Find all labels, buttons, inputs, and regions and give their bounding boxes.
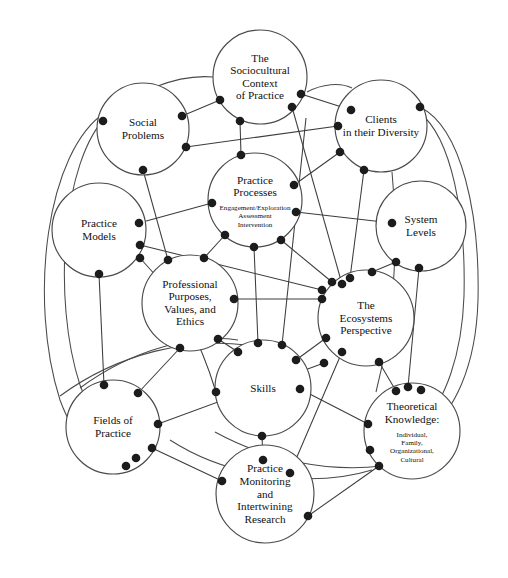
port-dot [258, 432, 267, 441]
node-label-line: Practice [81, 217, 117, 229]
boundary-arc-top-center [307, 85, 352, 92]
port-dot [322, 334, 331, 343]
port-dot [392, 258, 401, 267]
port-dot [417, 386, 426, 395]
concept-diagram-canvas: TheSocioculturalContextof PracticeSocial… [0, 0, 508, 578]
port-dot [346, 274, 355, 283]
port-dot [388, 219, 397, 228]
port-dot [218, 477, 227, 486]
node-label-fields-of-practice: Fields ofPractice [93, 414, 133, 439]
port-dot [214, 335, 223, 344]
port-dot [364, 420, 373, 429]
node-label-line: Ecosystems [340, 312, 393, 324]
node-label-line: and [257, 488, 274, 500]
node-label-line: Purposes, [168, 290, 211, 302]
node-label-line: Models [82, 230, 116, 242]
node-label-line: Values, and [164, 303, 216, 315]
node-sublabel-line: Intervention [238, 221, 273, 229]
node-label-line: Practice [247, 462, 283, 474]
port-dot [178, 112, 187, 121]
port-dot [290, 181, 299, 190]
port-dot [221, 231, 230, 240]
node-label-line: in their Diversity [343, 126, 420, 138]
port-dot [254, 339, 263, 348]
node-sublabel-line: Family, [401, 439, 423, 447]
port-dot [404, 383, 413, 392]
port-dot [368, 268, 377, 277]
port-dot [234, 348, 243, 357]
port-dot [132, 454, 141, 463]
node-label-line: Practice [237, 174, 273, 186]
port-dot [318, 286, 327, 295]
port-dot [292, 356, 301, 365]
port-dot [208, 199, 217, 208]
edge-fields-practice-monitoring [152, 448, 222, 481]
port-dot [148, 444, 157, 453]
edge-professional-purposes-fields [138, 348, 180, 393]
port-dot [154, 420, 163, 429]
port-dot [318, 295, 327, 304]
port-dot [375, 358, 384, 367]
port-dot [336, 148, 345, 157]
port-dot [360, 166, 369, 175]
port-dot [164, 256, 173, 265]
node-label-line: Sociocultural [230, 64, 290, 76]
edge-practice-processes-ecosystems [281, 240, 332, 282]
port-dot [230, 295, 239, 304]
edge-practice-models-practice-processes [139, 203, 212, 223]
port-dot [216, 96, 225, 105]
edge-practice-monitoring-theoretical [308, 466, 379, 516]
edge-skills-ecosystems [296, 338, 326, 360]
port-dot [200, 254, 209, 263]
edge-social-problems-clients [186, 126, 338, 147]
node-sublabel-line: Engagement/Exploration [220, 204, 291, 212]
port-dot [375, 462, 384, 471]
node-label-line: Ethics [176, 315, 204, 327]
port-dot [296, 385, 305, 394]
port-dot [95, 270, 104, 279]
node-label-line: Fields of [93, 414, 133, 426]
node-label-line: Context [242, 77, 278, 89]
node-label-line: System [405, 213, 438, 225]
port-dot [415, 264, 424, 273]
node-label-line: Levels [406, 226, 436, 238]
port-dot [328, 278, 337, 287]
node-label-practice-models: PracticeModels [81, 217, 117, 242]
node-label-line: Skills [250, 382, 276, 394]
port-dot [334, 122, 343, 131]
edge-practice-processes-skills [254, 247, 258, 343]
edge-social-problems-sociocultural [182, 100, 220, 116]
edge-practice-models-fields [99, 274, 104, 385]
node-label-line: Practice [95, 427, 131, 439]
node-label-line: Knowledge: [385, 413, 440, 425]
node-label-line: Social [129, 116, 157, 128]
port-dot [136, 241, 145, 250]
node-label-line: of Practice [236, 89, 284, 101]
concept-network-svg: TheSocioculturalContextof PracticeSocial… [0, 0, 508, 578]
port-dot [100, 381, 109, 390]
port-dot [182, 143, 191, 152]
port-dot [212, 388, 221, 397]
port-dot [338, 280, 347, 289]
port-dot [139, 166, 148, 175]
edge-practice-processes-professional-purposes [204, 235, 225, 258]
node-label-line: The [357, 299, 374, 311]
port-dot [99, 117, 108, 126]
node-label-line: Intertwining [237, 500, 293, 512]
port-dot [292, 208, 301, 217]
node-label-line: Perspective [340, 324, 392, 336]
port-dot [347, 106, 356, 115]
node-label-line: The [251, 52, 268, 64]
port-dot [250, 243, 259, 252]
port-dot [277, 236, 286, 245]
port-dot [122, 462, 131, 471]
node-label-system-levels: SystemLevels [405, 213, 438, 238]
port-dot [304, 512, 313, 521]
port-dot [297, 90, 306, 99]
node-sublabel-line: Assessment [238, 212, 272, 220]
node-sublabel-line: Individual, [397, 431, 428, 439]
port-dot [416, 103, 425, 112]
port-dot [392, 387, 401, 396]
node-label-line: Clients [365, 113, 397, 125]
node-label-line: Research [245, 513, 286, 525]
